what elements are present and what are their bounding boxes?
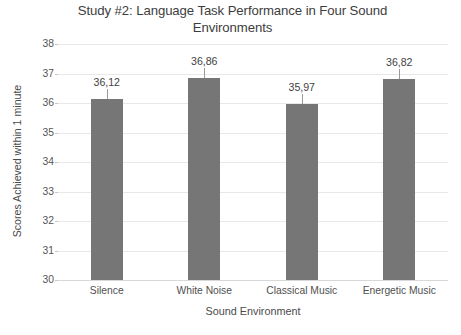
bar-value-label: 35,97 xyxy=(272,82,332,93)
y-axis-tick-mark xyxy=(55,280,58,281)
gridline xyxy=(58,44,448,45)
bar[interactable] xyxy=(383,79,415,280)
y-axis-tick-mark xyxy=(55,74,58,75)
x-axis-tick-label: White Noise xyxy=(156,285,254,297)
y-axis-tick-mark xyxy=(55,162,58,163)
x-axis-tick-label: Classical Music xyxy=(253,285,351,297)
x-axis-title: Sound Environment xyxy=(58,305,448,317)
y-axis-tick-mark xyxy=(55,251,58,252)
y-axis-tick-mark xyxy=(55,221,58,222)
chart-title-line-2: Environments xyxy=(55,19,410,36)
y-axis-tick-label: 38 xyxy=(8,39,54,49)
y-axis-tick-mark xyxy=(55,44,58,45)
y-axis-tick-label: 30 xyxy=(8,275,54,285)
data-label-leader-line xyxy=(302,94,303,104)
y-axis-tick-mark xyxy=(55,192,58,193)
y-axis-title: Scores Achieved within 1 minute xyxy=(11,51,23,271)
data-label-leader-line xyxy=(107,89,108,99)
x-axis-tick-labels: SilenceWhite NoiseClassical MusicEnerget… xyxy=(58,285,448,301)
data-label-leader-line xyxy=(399,69,400,79)
gridline xyxy=(58,280,448,281)
bar[interactable] xyxy=(91,99,123,280)
y-axis-tick-labels: 383736353433323130 xyxy=(0,44,54,280)
plot-area: 36,1236,8635,9736,82 xyxy=(58,44,448,280)
gridline xyxy=(58,74,448,75)
chart-title-line-1: Study #2: Language Task Performance in F… xyxy=(55,2,410,19)
bar-value-label: 36,82 xyxy=(369,57,429,68)
x-axis-tick-label: Energetic Music xyxy=(351,285,449,297)
bar[interactable] xyxy=(188,78,220,280)
bar-value-label: 36,86 xyxy=(174,56,234,67)
x-axis-tick-label: Silence xyxy=(58,285,156,297)
bar[interactable] xyxy=(286,104,318,280)
chart-title: Study #2: Language Task Performance in F… xyxy=(55,2,410,36)
data-label-leader-line xyxy=(204,68,205,78)
bar-value-label: 36,12 xyxy=(77,77,137,88)
y-axis-tick-mark xyxy=(55,133,58,134)
y-axis-tick-mark xyxy=(55,103,58,104)
